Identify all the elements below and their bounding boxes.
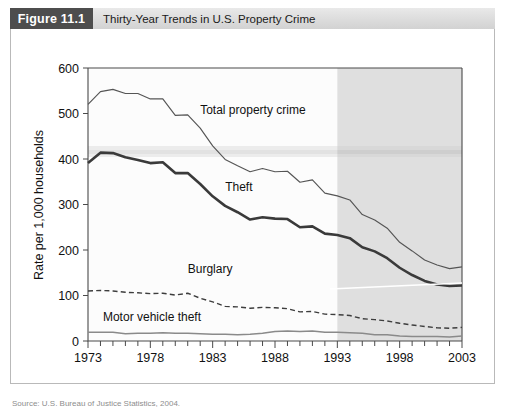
figure-header: Figure 11.1 Thirty-Year Trends in U.S. P… <box>10 8 495 29</box>
figure-frame <box>10 29 495 384</box>
figure-number-label: Figure 11.1 <box>10 8 93 29</box>
figure-root: Figure 11.1 Thirty-Year Trends in U.S. P… <box>0 0 507 408</box>
source-note: Source: U.S. Bureau of Justice Statistic… <box>12 399 312 408</box>
figure-title-label: Thirty-Year Trends in U.S. Property Crim… <box>93 8 495 29</box>
